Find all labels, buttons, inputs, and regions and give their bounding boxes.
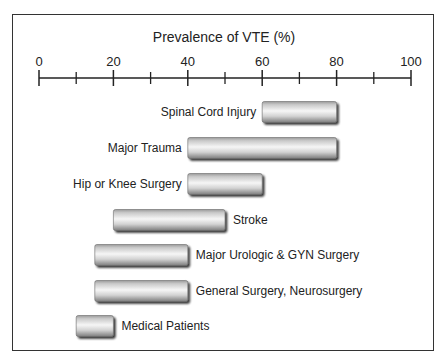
bar (76, 316, 113, 337)
category-label: Spinal Cord Injury (161, 105, 256, 119)
category-label: Hip or Knee Surgery (73, 177, 182, 191)
category-label: Major Urologic & GYN Surgery (196, 248, 359, 262)
category-label: Medical Patients (121, 319, 209, 333)
bar (113, 210, 225, 231)
x-tick-label: 40 (181, 54, 195, 69)
chart-title: Prevalence of VTE (%) (153, 29, 295, 45)
vte-prevalence-chart: Prevalence of VTE (%) 020406080100 Spina… (0, 0, 448, 364)
category-label: Major Trauma (108, 141, 182, 155)
x-axis: 020406080100 (35, 54, 421, 86)
category-label: Stroke (233, 213, 268, 227)
bar-group: Stroke (113, 210, 268, 231)
bar (188, 138, 337, 159)
x-tick-label: 100 (400, 54, 422, 69)
x-tick-label: 60 (255, 54, 269, 69)
x-tick-label: 0 (35, 54, 42, 69)
bar-group: General Surgery, Neurosurgery (95, 281, 363, 302)
bar (262, 102, 336, 123)
bar (188, 174, 262, 195)
bar-group: Medical Patients (76, 316, 209, 337)
bar-group: Spinal Cord Injury (161, 102, 337, 123)
bars: Spinal Cord InjuryMajor TraumaHip or Kne… (73, 102, 362, 337)
category-label: General Surgery, Neurosurgery (196, 284, 363, 298)
bar-group: Hip or Knee Surgery (73, 174, 262, 195)
bar-group: Major Urologic & GYN Surgery (95, 245, 359, 266)
x-tick-label: 20 (106, 54, 120, 69)
bar-group: Major Trauma (108, 138, 337, 159)
x-tick-label: 80 (329, 54, 343, 69)
bar (95, 245, 188, 266)
bar (95, 281, 188, 302)
